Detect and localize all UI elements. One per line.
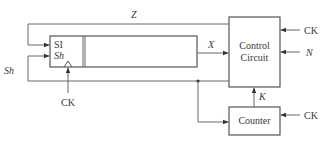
- sh-to-counter-wire: [198, 81, 228, 122]
- x-label: X: [207, 39, 215, 50]
- counter-ck-label: CK: [304, 110, 319, 121]
- counter-label: Counter: [238, 115, 271, 126]
- shift-register: SI Sh: [50, 36, 197, 67]
- k-label: K: [258, 91, 267, 102]
- register-clock: CK: [61, 68, 76, 108]
- z-label: Z: [131, 9, 137, 20]
- sh-label: Sh: [4, 65, 14, 76]
- k-signal: K: [254, 88, 267, 107]
- x-signal: X: [197, 39, 228, 53]
- si-input-label: SI: [54, 39, 63, 50]
- control-circuit-label-line1: Control: [239, 40, 270, 51]
- shift-register-box: [50, 36, 197, 67]
- sh-input-label: Sh: [54, 50, 64, 61]
- control-ck-label: CK: [304, 25, 319, 36]
- counter-clock: CK: [281, 110, 319, 121]
- counter: Counter: [229, 107, 280, 135]
- n-label: N: [305, 47, 314, 58]
- n-signal: N: [281, 47, 314, 58]
- control-clock: CK: [281, 25, 319, 36]
- register-ck-label: CK: [61, 97, 76, 108]
- control-circuit-label-line2: Circuit: [241, 52, 269, 63]
- block-diagram: SI Sh Control Circuit Counter Z Sh X CK …: [0, 0, 336, 148]
- control-circuit: Control Circuit: [229, 17, 280, 87]
